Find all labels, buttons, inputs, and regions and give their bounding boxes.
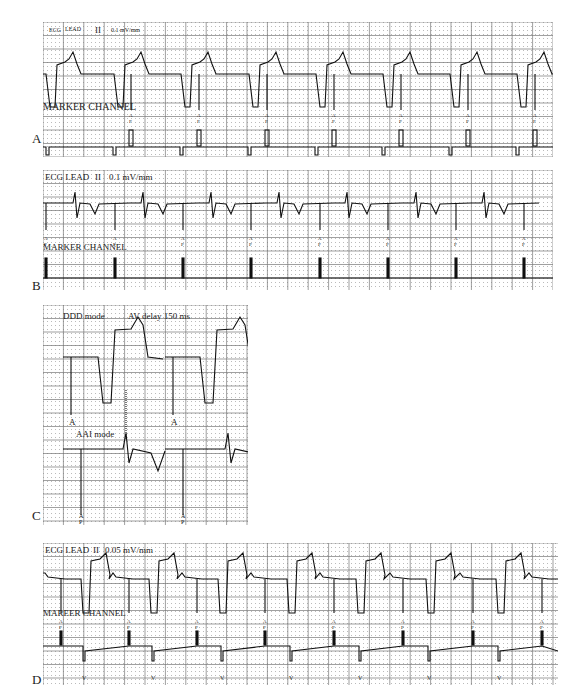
- ap-marker-label: P: [59, 625, 62, 630]
- ecg-panel-a: ECGLEADII0.1 mV/mmMARKER CHANNELAPAPAPAP…: [43, 22, 553, 157]
- ap-marker-label: P: [265, 119, 268, 124]
- panel-letter-b: B: [32, 278, 41, 294]
- ap-marker-label: A: [44, 236, 48, 241]
- ap-marker-label: A: [195, 619, 199, 624]
- vp-marker-label: V: [220, 675, 225, 681]
- lead-label: ECG: [49, 27, 62, 33]
- ap-marker-label: A: [127, 619, 131, 624]
- lead-label: ECG LEAD: [45, 545, 90, 555]
- ecg-panel-b: ECG LEADII0.1 mV/mmMARKER CHANNELAPAPAPA…: [43, 170, 553, 290]
- ap-marker-label: A: [386, 236, 390, 241]
- ap-marker-label: A: [533, 113, 537, 118]
- lead-number: II: [95, 25, 101, 35]
- atrial-marker-label: A: [171, 417, 178, 427]
- ap-marker-label: A: [129, 113, 133, 118]
- ap-marker-label: A: [540, 619, 544, 624]
- vp-marker-label: V: [497, 675, 502, 681]
- ap-marker-label: A: [318, 236, 322, 241]
- ap-marker-label: P: [386, 242, 389, 247]
- vp-marker-label: V: [358, 675, 363, 681]
- ap-marker-label: P: [399, 119, 402, 124]
- lead-label: ECG LEAD: [45, 172, 90, 182]
- ecg-panel-d: ECG LEADII0.05 mV/mmMAREER CHANNELAPAPAP…: [43, 543, 558, 685]
- ap-marker-label: A: [265, 113, 269, 118]
- atrial-marker-label: A: [69, 417, 76, 427]
- vp-marker-label: V: [82, 675, 87, 681]
- ap-marker-label: A: [454, 236, 458, 241]
- marker-channel-label: MARKER CHANNEL: [43, 101, 136, 112]
- ap-marker-label: P: [127, 625, 130, 630]
- ap-marker-label: A: [522, 236, 526, 241]
- panel-letter-c: C: [32, 508, 41, 524]
- ap-marker-label: A: [332, 113, 336, 118]
- gain-label: 0.1 mV/mm: [111, 27, 140, 33]
- ap-marker-label: A: [401, 619, 405, 624]
- ap-marker-label: A: [263, 619, 267, 624]
- ap-marker-label: P: [129, 119, 132, 124]
- lead-number: II: [93, 545, 99, 555]
- ddd-mode-label: DDD mode: [63, 311, 105, 321]
- ap-marker-label: P: [318, 242, 321, 247]
- vp-marker-label: V: [427, 675, 432, 681]
- ap-marker-label: P: [44, 242, 47, 247]
- ap-marker-label: P: [263, 625, 266, 630]
- lead-number: II: [95, 172, 101, 182]
- ap-marker-label: A: [59, 619, 63, 624]
- ap-marker-label: P: [471, 625, 474, 630]
- ap-marker-label: A: [197, 113, 201, 118]
- ap-marker-label: P: [332, 119, 335, 124]
- ecg-grid: [43, 170, 553, 290]
- ap-marker-label: P: [332, 625, 335, 630]
- ap-marker-label: P: [522, 242, 525, 247]
- ap-marker-label: A: [399, 113, 403, 118]
- ap-marker-label: A: [332, 619, 336, 624]
- ap-marker-label: A: [181, 236, 185, 241]
- aai-mode-label: AAI mode: [76, 429, 114, 439]
- ecg-grid: [43, 22, 553, 157]
- panel-letter-d: D: [32, 672, 41, 687]
- ap-marker-label: P: [466, 119, 469, 124]
- marker-channel-label: MAREER CHANNEL: [43, 608, 126, 618]
- ap-marker-label: P: [249, 242, 252, 247]
- lead-label: LEAD: [65, 26, 82, 32]
- panel-letter-a: A: [32, 131, 41, 147]
- ap-marker-label: A: [471, 619, 475, 624]
- gain-label: 0.1 mV/mm: [109, 172, 153, 182]
- ap-marker-label: P: [454, 242, 457, 247]
- ap-marker-label: P: [113, 242, 116, 247]
- av-delay-label: AV delay 150 ms: [128, 311, 190, 321]
- vp-marker-label: V: [289, 675, 294, 681]
- ap-marker-label: P: [197, 119, 200, 124]
- ap-marker-label: P: [181, 242, 184, 247]
- gain-label: 0.05 mV/mm: [105, 545, 153, 555]
- ap-marker-label: A: [466, 113, 470, 118]
- vp-marker-label: V: [151, 675, 156, 681]
- ap-marker-label: A: [113, 236, 117, 241]
- ap-marker-label: P: [195, 625, 198, 630]
- ecg-panel-c: DDD modeAV delay 150 msAAI modeAAPAAP: [43, 305, 248, 525]
- ap-marker-label: A: [249, 236, 253, 241]
- ap-marker-label: P: [533, 119, 536, 124]
- ap-marker-label: P: [401, 625, 404, 630]
- ap-marker-label: P: [540, 625, 543, 630]
